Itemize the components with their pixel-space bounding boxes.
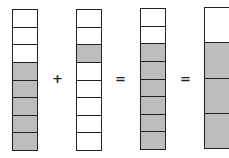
unshaded-cell xyxy=(77,63,101,81)
unshaded-cell xyxy=(13,45,37,63)
shaded-cell xyxy=(205,114,229,148)
fraction-bar-2 xyxy=(76,9,102,151)
shaded-cell xyxy=(141,97,165,115)
shaded-cell xyxy=(141,115,165,133)
shaded-cell xyxy=(77,45,101,63)
unshaded-cell xyxy=(77,81,101,99)
unshaded-cell xyxy=(77,28,101,46)
unshaded-cell xyxy=(13,10,37,28)
equals-operator-1: = xyxy=(115,72,126,85)
shaded-cell xyxy=(141,44,165,62)
shaded-cell xyxy=(141,80,165,98)
unshaded-cell xyxy=(77,98,101,116)
shaded-cell xyxy=(141,62,165,80)
unshaded-cell xyxy=(141,9,165,27)
fraction-bar-3 xyxy=(140,8,166,150)
shaded-cell xyxy=(13,116,37,134)
fraction-bar-4 xyxy=(204,7,229,149)
shaded-cell xyxy=(13,98,37,116)
unshaded-cell xyxy=(13,28,37,46)
shaded-cell xyxy=(205,79,229,114)
unshaded-cell xyxy=(77,116,101,134)
unshaded-cell xyxy=(205,8,229,43)
plus-operator: + xyxy=(52,72,63,85)
shaded-cell xyxy=(141,132,165,149)
shaded-cell xyxy=(13,81,37,99)
unshaded-cell xyxy=(77,10,101,28)
fraction-bar-1 xyxy=(12,9,38,151)
equals-operator-2: = xyxy=(180,72,191,85)
unshaded-cell xyxy=(141,27,165,45)
shaded-cell xyxy=(13,133,37,150)
unshaded-cell xyxy=(77,133,101,150)
shaded-cell xyxy=(13,63,37,81)
shaded-cell xyxy=(205,43,229,78)
